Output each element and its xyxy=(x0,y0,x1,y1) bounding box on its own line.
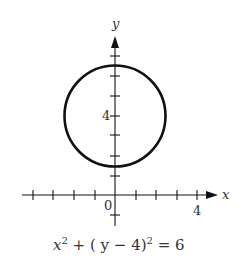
equation-middle: + ( y − 4) xyxy=(68,236,147,254)
x-tick-label-4: 4 xyxy=(193,203,201,218)
x-axis xyxy=(22,190,218,200)
origin-label: 0 xyxy=(104,198,112,213)
x-axis-arrow-icon xyxy=(206,191,218,199)
equation-label: x2 + ( y − 4)2 = 6 xyxy=(53,235,185,254)
y-axis-arrow-icon xyxy=(111,36,119,48)
x-axis-label: x xyxy=(222,187,230,202)
equation-rhs: = 6 xyxy=(153,236,185,254)
y-tick-label-4: 4 xyxy=(102,108,110,123)
graph-svg: y x 4 0 4 x2 + ( y − 4)2 = 6 xyxy=(0,0,248,266)
circle-graph-figure: y x 4 0 4 x2 + ( y − 4)2 = 6 xyxy=(0,0,248,266)
y-axis-label: y xyxy=(111,16,120,31)
